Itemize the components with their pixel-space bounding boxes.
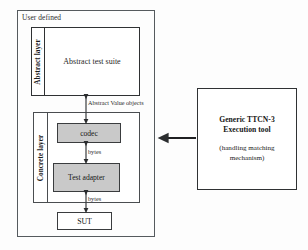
concrete-layer-side-label: Concrete layer xyxy=(37,134,45,181)
abstract-test-suite-label: Abstract test suite xyxy=(45,28,139,95)
tool-title: Generic TTCN-3 Execution tool xyxy=(219,115,275,135)
sut-block: SUT xyxy=(57,212,112,230)
bytes-label-codec-adapter: bytes xyxy=(88,148,101,155)
abstract-layer-side-cell: Abstract layer xyxy=(32,28,45,95)
abstract-value-objects-label: Abstract Value objects xyxy=(88,99,144,106)
tool-title-line2: Execution tool xyxy=(219,125,275,135)
tool-subtitle: (handling matching mechanism) xyxy=(219,144,274,163)
bytes-label-adapter-sut: bytes xyxy=(88,195,101,202)
concrete-layer-side-cell: Concrete layer xyxy=(34,113,48,202)
tool-subtitle-line2: mechanism) xyxy=(219,154,274,163)
user-defined-label: User defined xyxy=(22,13,61,22)
tool-subtitle-line1: (handling matching xyxy=(219,144,274,153)
diagram-canvas: User defined Abstract layer Abstract tes… xyxy=(0,0,308,250)
abstract-layer-box: Abstract layer Abstract test suite xyxy=(31,27,140,96)
codec-block: codec xyxy=(57,123,121,143)
tool-title-line1: Generic TTCN-3 xyxy=(219,115,275,125)
abstract-layer-side-label: Abstract layer xyxy=(34,39,42,85)
generic-ttcn3-execution-tool-box: Generic TTCN-3 Execution tool (handling … xyxy=(197,88,297,190)
test-adapter-block: Test adapter xyxy=(53,163,120,192)
